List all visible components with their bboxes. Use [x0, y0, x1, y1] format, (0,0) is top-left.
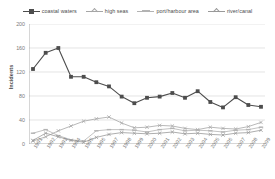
line-chart: coastal waters high seas port/harbour ar…: [0, 0, 275, 179]
legend-marker-cross-icon: [86, 8, 103, 15]
legend-marker-square-icon: [23, 8, 40, 15]
legend-label: high seas: [105, 8, 129, 14]
y-tick-label: 0: [3, 141, 25, 147]
legend-item-coastal-waters: coastal waters: [23, 8, 77, 15]
y-tick-label: 80: [3, 93, 25, 99]
legend-item-high-seas: high seas: [86, 8, 129, 15]
y-tick-label: 200: [3, 21, 25, 27]
chart-legend: coastal waters high seas port/harbour ar…: [0, 4, 275, 18]
legend-marker-dash-icon: [137, 8, 154, 15]
legend-label: coastal waters: [42, 8, 77, 14]
legend-label: river/canal: [227, 8, 252, 14]
plot-svg: [29, 24, 265, 144]
x-axis: 1991199219931994199519961997199819992000…: [29, 146, 265, 179]
legend-item-port-harbour-area: port/harbour area: [137, 8, 199, 15]
y-tick-label: 40: [3, 117, 25, 123]
legend-item-river-canal: river/canal: [208, 8, 252, 15]
series-coastal-waters: [31, 46, 263, 109]
y-tick-label: 120: [3, 69, 25, 75]
y-axis: Incidents 04080120160200: [0, 18, 29, 150]
legend-label: port/harbour area: [156, 8, 199, 14]
gridlines: [29, 24, 265, 144]
legend-marker-cross-icon: [208, 8, 225, 15]
plot-area: [29, 24, 265, 144]
y-tick-label: 160: [3, 45, 25, 51]
